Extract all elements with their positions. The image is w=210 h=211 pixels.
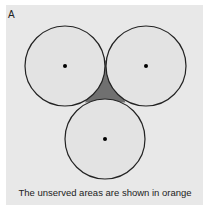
center-dot-icon bbox=[103, 137, 107, 141]
panel-label: A bbox=[8, 9, 15, 20]
center-dot-icon bbox=[63, 64, 67, 68]
coverage-diagram bbox=[0, 0, 210, 211]
center-dot-icon bbox=[144, 64, 148, 68]
diagram-caption: The unserved areas are shown in orange bbox=[0, 187, 210, 198]
